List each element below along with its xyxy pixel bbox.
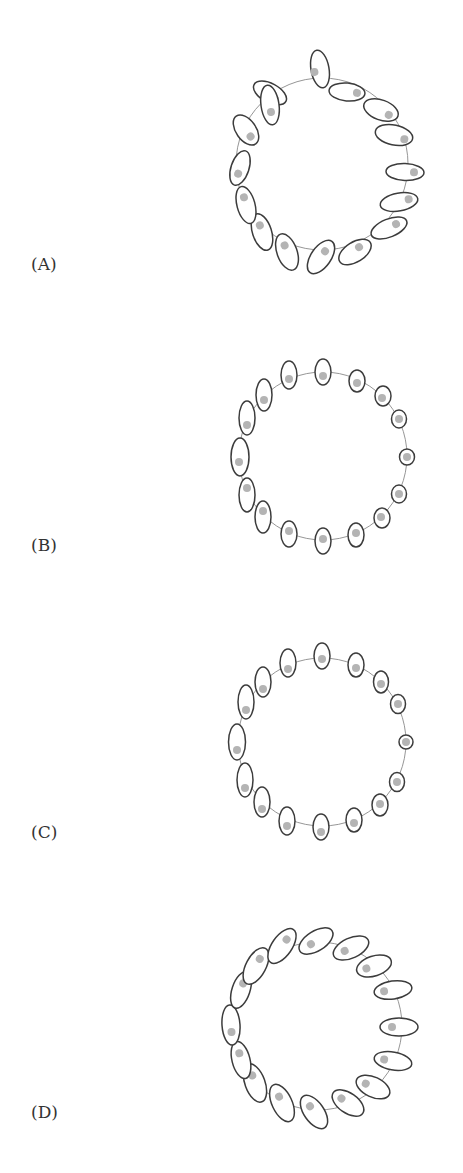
ellipse-node xyxy=(390,773,405,792)
gray-dot xyxy=(352,664,360,672)
gray-dot xyxy=(318,655,326,663)
ellipse-node xyxy=(232,184,259,225)
gray-dot xyxy=(377,680,385,688)
gray-dot xyxy=(319,535,327,543)
ellipse-node xyxy=(374,508,390,528)
ellipse-outline xyxy=(226,148,254,188)
panel-label-c: (C) xyxy=(31,822,57,842)
gray-dot xyxy=(259,685,267,693)
gray-dot xyxy=(259,507,267,515)
ellipse-node xyxy=(379,190,420,214)
ellipse-outline xyxy=(313,814,329,840)
gray-dot xyxy=(242,706,250,714)
ellipse-node xyxy=(281,361,297,389)
gray-dot xyxy=(377,513,385,521)
ellipse-node xyxy=(256,379,272,411)
ellipse-node xyxy=(238,685,254,719)
ellipse-node xyxy=(295,922,338,959)
gray-dot xyxy=(376,800,384,808)
ellipse-node xyxy=(380,1018,418,1036)
gray-dot xyxy=(353,379,361,387)
ellipse-node xyxy=(373,1049,414,1073)
ellipse-outline xyxy=(255,501,271,533)
gray-dot xyxy=(243,484,251,492)
diagram-b xyxy=(231,359,415,554)
ellipse-node xyxy=(349,370,365,392)
ellipse-outline xyxy=(295,922,338,959)
ellipse-node xyxy=(348,653,364,677)
ellipse-node xyxy=(255,667,271,697)
ellipse-node xyxy=(399,735,413,749)
gray-dot xyxy=(394,700,402,708)
diagram-a xyxy=(226,49,424,279)
ellipse-outline xyxy=(229,724,246,760)
ellipse-outline xyxy=(232,184,259,225)
ellipse-node xyxy=(307,49,332,90)
gray-dot xyxy=(283,822,291,830)
ellipse-outline xyxy=(221,1004,242,1045)
ellipse-outline xyxy=(279,807,295,835)
ellipse-outline xyxy=(379,190,420,214)
ellipse-outline xyxy=(256,379,272,411)
gray-dot xyxy=(395,415,403,423)
ellipse-node xyxy=(348,523,364,547)
gray-dot xyxy=(402,738,410,746)
ellipse-node xyxy=(315,359,331,385)
gray-dot xyxy=(241,784,249,792)
ellipse-node xyxy=(279,807,295,835)
ellipse-node xyxy=(400,449,415,465)
ellipse-node xyxy=(372,794,388,816)
diagram-c xyxy=(229,643,414,840)
ellipse-node xyxy=(237,763,253,797)
ellipse-outline xyxy=(239,401,255,435)
ellipse-node xyxy=(313,814,329,840)
gray-dot xyxy=(285,375,293,383)
gray-dot xyxy=(317,828,325,836)
ellipse-outline xyxy=(264,1081,299,1126)
ellipse-node xyxy=(334,234,375,270)
ellipse-ring-diagrams xyxy=(0,0,463,1173)
ellipse-node xyxy=(226,148,254,188)
ellipse-outline xyxy=(368,213,410,244)
ellipse-node xyxy=(239,401,255,435)
ellipse-outline xyxy=(302,236,340,279)
ellipse-outline xyxy=(334,234,375,270)
ellipse-node xyxy=(375,386,391,406)
ellipse-outline xyxy=(239,478,255,512)
panel-label-a: (A) xyxy=(31,254,57,274)
ellipse-node xyxy=(295,1091,333,1134)
gray-dot xyxy=(378,394,386,402)
ellipse-node xyxy=(231,438,249,476)
ellipse-node xyxy=(328,81,365,102)
ellipse-node xyxy=(228,110,264,149)
ellipse-node xyxy=(346,808,362,832)
ellipse-node xyxy=(221,1004,242,1045)
ellipse-outline xyxy=(295,1091,333,1134)
ellipse-node xyxy=(255,501,271,533)
diagram-d xyxy=(221,922,418,1133)
gray-dot xyxy=(395,490,403,498)
ellipse-node xyxy=(315,528,331,554)
ellipse-outline xyxy=(354,951,394,981)
gray-dot xyxy=(235,458,243,466)
gray-dot xyxy=(233,746,241,754)
ellipse-outline xyxy=(380,1018,418,1036)
ellipse-node xyxy=(373,978,413,1001)
ellipse-outline xyxy=(231,438,249,476)
ellipse-node xyxy=(374,671,389,693)
ellipse-node xyxy=(281,521,297,547)
ellipse-outline xyxy=(373,121,414,148)
ellipse-node xyxy=(392,485,407,503)
ellipse-outline xyxy=(373,978,413,1001)
gray-dot xyxy=(403,453,411,461)
ellipse-node xyxy=(239,478,255,512)
gray-dot xyxy=(284,665,292,673)
ellipse-node xyxy=(361,94,402,125)
gray-dot xyxy=(285,527,293,535)
ellipse-node xyxy=(354,951,394,981)
gray-dot xyxy=(243,421,251,429)
ellipse-node xyxy=(392,410,407,428)
ellipse-outline xyxy=(386,163,425,181)
ellipse-node xyxy=(314,643,330,669)
gray-dot xyxy=(352,529,360,537)
